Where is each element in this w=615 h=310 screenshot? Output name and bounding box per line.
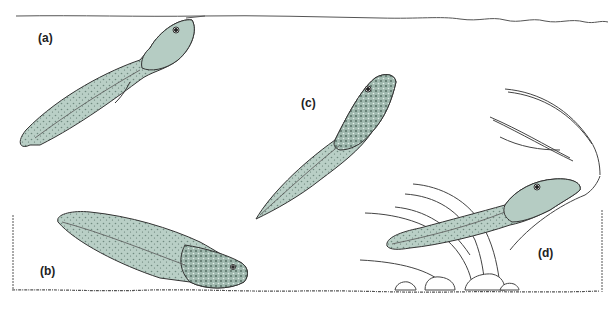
label-b: (b): [40, 264, 55, 278]
rocks: [395, 274, 519, 290]
label-a: (a): [38, 31, 53, 45]
tadpole-b: [58, 212, 248, 288]
label-d: (d): [538, 246, 553, 260]
tadpole-c: [256, 75, 396, 219]
tadpole-illustration: (a) (b) (c) (d): [0, 0, 615, 310]
label-c: (c): [301, 96, 316, 110]
water-surface-line: [16, 16, 608, 23]
tadpole-d: [387, 179, 580, 249]
illustration-artwork: [0, 0, 615, 310]
